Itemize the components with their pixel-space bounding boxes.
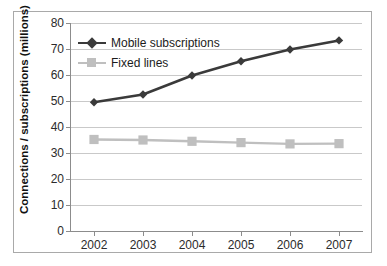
chart-figure: 80 70 60 50 40 30 20 10 0 Connections / … xyxy=(0,0,387,266)
legend-label-mobile-subscriptions: Mobile subscriptions xyxy=(111,36,220,50)
legend-marker-square-icon xyxy=(78,56,106,70)
data-point-marker xyxy=(138,135,147,144)
chart-legend: Mobile subscriptions Fixed lines xyxy=(78,33,238,73)
data-point-marker xyxy=(90,98,98,106)
legend-item-fixed-lines: Fixed lines xyxy=(78,53,238,73)
data-point-marker xyxy=(236,138,245,147)
data-point-marker xyxy=(89,135,98,144)
data-point-marker xyxy=(334,139,343,148)
data-point-marker xyxy=(237,57,245,65)
data-point-marker xyxy=(187,137,196,146)
legend-label-fixed-lines: Fixed lines xyxy=(111,56,168,70)
data-point-marker xyxy=(139,90,147,98)
series-line xyxy=(94,139,339,143)
data-point-marker xyxy=(286,45,294,53)
data-point-marker xyxy=(285,139,294,148)
series-fixed-lines xyxy=(89,135,343,149)
data-point-marker xyxy=(335,36,343,44)
legend-marker-diamond-icon xyxy=(78,36,106,50)
legend-item-mobile-subscriptions: Mobile subscriptions xyxy=(78,33,238,53)
